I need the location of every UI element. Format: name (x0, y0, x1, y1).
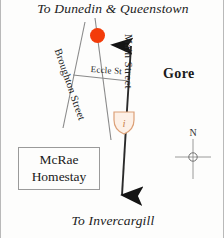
homestay-name-line-2: Homestay (32, 169, 87, 185)
svg-text:i: i (122, 117, 125, 129)
compass-rose-graphic (175, 139, 211, 179)
town-label-gore: Gore (163, 66, 195, 81)
information-marker-graphic[interactable]: i (114, 112, 134, 134)
destination-label-south: To Invercargill (1, 214, 224, 229)
homestay-name-line-1: McRae (40, 152, 79, 168)
compass-north-label: N (171, 128, 215, 139)
homestay-callout-box: McRae Homestay (18, 147, 100, 190)
destination-label-north: To Dunedin & Queenstown (1, 2, 224, 17)
street-label-main-street: Main Street (122, 34, 134, 89)
street-label-eccles-street: Eccle St (90, 65, 122, 77)
map-geometry-layer: i (1, 0, 224, 238)
map-canvas: i To Dunedin & Queenstown To Invercargil… (0, 0, 224, 238)
location-dot-marker[interactable] (90, 28, 105, 43)
